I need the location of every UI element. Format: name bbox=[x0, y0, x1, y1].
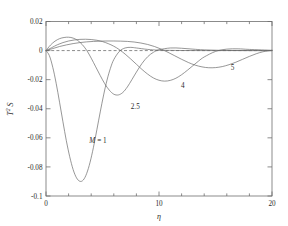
x-tick-label: 0 bbox=[44, 200, 48, 208]
curve-label: 2.5 bbox=[131, 103, 140, 111]
x-axis-ticks bbox=[46, 22, 272, 197]
y-axis-title-tail: S bbox=[6, 102, 15, 108]
y-axis-tick-labels: 0.020-0.02-0.04-0.06-0.08-0.1 bbox=[28, 18, 43, 201]
curve-annotations: M = 12.545 bbox=[88, 64, 234, 145]
curve-label: M = 1 bbox=[88, 137, 107, 145]
y-tick-label: -0.02 bbox=[28, 76, 43, 84]
plot-frame bbox=[46, 22, 272, 197]
svg-text:T2 S: T2 S bbox=[5, 102, 15, 115]
data-curve bbox=[46, 39, 272, 81]
curve-label: 5 bbox=[231, 64, 235, 72]
x-axis-title: η bbox=[157, 212, 161, 221]
y-axis-ticks bbox=[46, 22, 272, 197]
y-tick-label: 0.02 bbox=[30, 18, 43, 26]
y-tick-label: 0 bbox=[39, 47, 43, 55]
data-curve bbox=[46, 41, 272, 68]
figure-container: 01020 0.020-0.02-0.04-0.06-0.08-0.1 M = … bbox=[0, 0, 288, 226]
y-tick-label: -0.06 bbox=[28, 134, 43, 142]
y-axis-title: T2 S bbox=[5, 102, 15, 115]
chart-canvas: 01020 0.020-0.02-0.04-0.06-0.08-0.1 M = … bbox=[0, 0, 288, 226]
y-tick-label: -0.04 bbox=[28, 105, 43, 113]
y-tick-label: -0.08 bbox=[28, 164, 43, 172]
x-tick-label: 20 bbox=[268, 200, 276, 208]
data-curve bbox=[46, 37, 272, 95]
y-tick-label: -0.1 bbox=[31, 193, 43, 201]
x-axis-tick-labels: 01020 bbox=[44, 200, 276, 208]
data-curves bbox=[46, 37, 272, 181]
x-tick-label: 10 bbox=[155, 200, 163, 208]
curve-label: 4 bbox=[181, 82, 185, 90]
data-curve bbox=[46, 47, 272, 181]
